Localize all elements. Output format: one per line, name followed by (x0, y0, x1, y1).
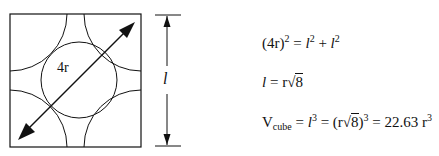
equation-1: (4r)2 = l2 + l2 (262, 34, 340, 51)
eq2-rhs: = r (266, 74, 287, 90)
eq3-result-exp: 3 (427, 112, 432, 123)
diagonal-label: 4r (57, 60, 69, 76)
eq3-result: = 22.63 r (369, 114, 427, 130)
eq3-radicand: 8 (351, 113, 359, 130)
arrowhead-bottom-icon (18, 123, 35, 140)
sqrt-icon: √ (287, 74, 295, 90)
fcc-face-diagram (0, 0, 439, 156)
eq1-plus: + (315, 35, 331, 51)
dim-arrow-down-icon (164, 134, 171, 145)
eq2-radicand: 8 (295, 73, 303, 90)
eq3-volume-subscript: cube (273, 121, 292, 132)
eq1-term2-exp: 2 (335, 33, 340, 44)
eq3-equals-1: = (292, 114, 308, 130)
side-label: l (163, 70, 167, 88)
eq3-volume: V (262, 114, 273, 130)
face-center-atom (41, 42, 117, 118)
sqrt-icon: √ (343, 114, 351, 130)
dim-arrow-up-icon (164, 16, 171, 27)
equation-3: Vcube = l3 = (r√8)3 = 22.63 r3 (262, 113, 432, 132)
diagonal-arrow (28, 31, 126, 129)
eq1-equals: = (290, 35, 306, 51)
equation-2: l = r√8 (262, 73, 303, 90)
eq3-equals-2: = (r (317, 114, 343, 130)
eq1-lhs: (4r) (262, 35, 285, 51)
